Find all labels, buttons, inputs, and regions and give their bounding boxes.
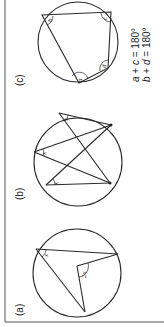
chord-b3: [34, 125, 111, 152]
point-p1: [110, 124, 113, 127]
angle-label-d: d: [100, 64, 108, 68]
point-p2: [109, 182, 112, 185]
chord-a1: [36, 249, 118, 254]
panel-c: b c d a (c) a + c = 180° b + d = 180°: [14, 2, 152, 86]
angle-label-x3: x: [52, 181, 60, 186]
angle-label-x1: x: [62, 117, 70, 122]
angle-label-b: b: [46, 18, 54, 22]
panel-label-c: (c): [14, 74, 25, 86]
angle-label-a: a: [76, 78, 84, 82]
chord-b5: [46, 125, 111, 185]
circle-c: [38, 2, 118, 82]
panel-label-a: (a): [14, 304, 25, 316]
panel-a: x 2x (a): [14, 229, 121, 317]
circle-theorems-figure: b c d a (c) a + c = 180° b + d = 180° x …: [0, 0, 164, 327]
equation-a-plus-c: a + c = 180°: [130, 28, 141, 82]
radius-a1: [77, 254, 118, 266]
circle-b: [34, 118, 122, 206]
panel-b: x x x (b): [14, 113, 122, 206]
chord-a2: [36, 249, 85, 312]
angle-label-x-circumference: x: [42, 253, 50, 258]
equation-b-plus-d: b + d = 180°: [141, 27, 152, 82]
angle-label-2x-centre: 2x: [80, 271, 88, 279]
circle-a: [33, 229, 121, 317]
panel-label-b: (b): [14, 188, 25, 200]
